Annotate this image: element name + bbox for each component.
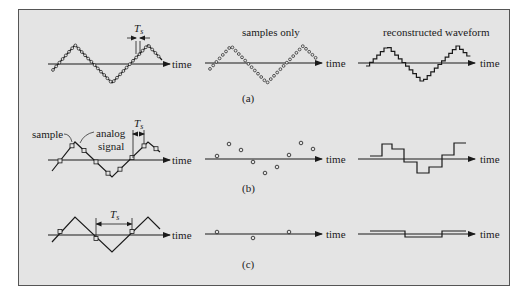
axis-label-time: time (326, 153, 346, 165)
axis-label-time: time (172, 58, 192, 70)
sampling-diagram: time Ts samples only time reconstructed … (0, 0, 528, 308)
row-caption: (b) (242, 182, 255, 195)
axis-label-time: time (480, 57, 500, 69)
axis-label-time: time (326, 228, 346, 240)
analog-annotation-line2: signal (98, 140, 124, 152)
panel-title: samples only (242, 26, 300, 38)
axis-label-time: time (480, 153, 500, 165)
axis-label-time: time (172, 154, 192, 166)
row-caption: (a) (242, 92, 255, 105)
row-caption: (c) (242, 258, 255, 271)
analog-annotation-line1: analog (96, 127, 126, 139)
figure-frame (19, 10, 510, 286)
axis-label-time: time (480, 228, 500, 240)
panel-title: reconstructed waveform (383, 26, 490, 38)
axis-label-time: time (172, 229, 192, 241)
sample-annotation: sample (32, 128, 63, 140)
axis-label-time: time (326, 57, 346, 69)
